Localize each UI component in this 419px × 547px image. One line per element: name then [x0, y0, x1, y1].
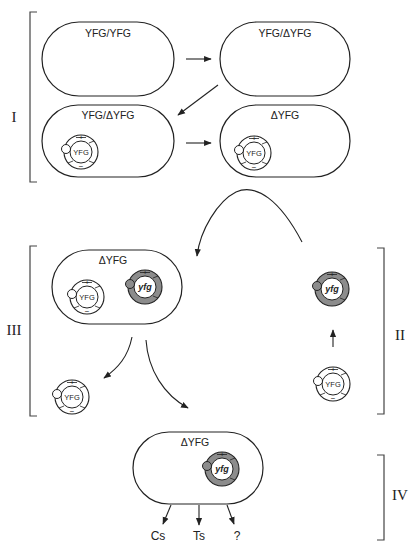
bracket-stage-4 — [377, 455, 384, 540]
arrow — [104, 337, 132, 378]
cell-label: ΔYFG — [271, 109, 300, 121]
svg-text:yfg: yfg — [137, 282, 152, 292]
bracket-stage-2 — [377, 248, 384, 414]
plasmid-mutant: yfg — [203, 450, 240, 486]
stage-label-1: I — [12, 109, 17, 125]
svg-text:YFG: YFG — [79, 293, 95, 302]
cell-label: ΔYFG — [99, 254, 128, 266]
svg-text:yfg: yfg — [214, 464, 229, 474]
plasmid-shuffle-diagram: + − + I III II IV YFG/YFG YFG/ΔYFG YFG/Δ… — [0, 0, 419, 547]
arrow — [227, 505, 234, 524]
plasmid-wildtype: YFG — [68, 278, 105, 316]
svg-text:YFG: YFG — [73, 148, 89, 157]
arrow — [146, 340, 188, 408]
cell-label: YFG/ΔYFG — [81, 109, 134, 121]
stage-label-3: III — [7, 322, 22, 338]
outcome-ts: Ts — [193, 529, 205, 543]
plasmid-wildtype: YFG — [62, 133, 99, 171]
svg-text:YFG: YFG — [325, 380, 341, 389]
bracket-stage-3 — [30, 246, 37, 416]
stage-label-2: II — [395, 327, 405, 343]
bracket-stage-1 — [30, 12, 37, 182]
plasmid-mutant: yfg — [126, 268, 163, 304]
cell-label: YFG/ΔYFG — [258, 27, 311, 39]
outcome-unknown: ? — [234, 529, 241, 543]
plasmid-wildtype-lost: YFG — [53, 378, 90, 416]
svg-text:yfg: yfg — [324, 284, 339, 294]
stage-label-4: IV — [392, 487, 408, 503]
svg-text:YFG: YFG — [246, 149, 262, 158]
cell-label: YFG/YFG — [85, 27, 131, 39]
cell-label: ΔYFG — [181, 436, 210, 448]
plasmid-wildtype: YFG — [235, 134, 272, 172]
plasmid-wildtype: YFG — [314, 365, 351, 403]
outcome-cs: Cs — [151, 529, 166, 543]
curved-arrow — [197, 190, 302, 256]
arrow — [178, 85, 218, 115]
plasmid-mutant: yfg — [313, 270, 350, 306]
arrow — [163, 505, 171, 524]
svg-text:YFG: YFG — [64, 393, 80, 402]
